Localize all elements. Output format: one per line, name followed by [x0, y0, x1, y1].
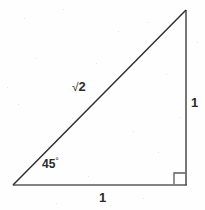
- degree-symbol-icon: °: [55, 156, 59, 166]
- horizontal-leg-length-label: 1: [99, 191, 106, 204]
- triangle-drawing: [0, 0, 205, 210]
- base-angle-value: 45: [42, 157, 55, 171]
- hypotenuse-length-label: √2: [72, 80, 86, 93]
- triangle-figure: √2 45° 1 1: [0, 0, 205, 210]
- triangle-side-hypotenuse: [13, 10, 186, 185]
- vertical-leg-length-label: 1: [191, 96, 198, 109]
- base-angle-label: 45°: [42, 158, 59, 170]
- radical-sign-icon: √: [72, 81, 79, 93]
- right-angle-marker-icon: [174, 173, 185, 184]
- hypotenuse-radicand: 2: [79, 79, 86, 94]
